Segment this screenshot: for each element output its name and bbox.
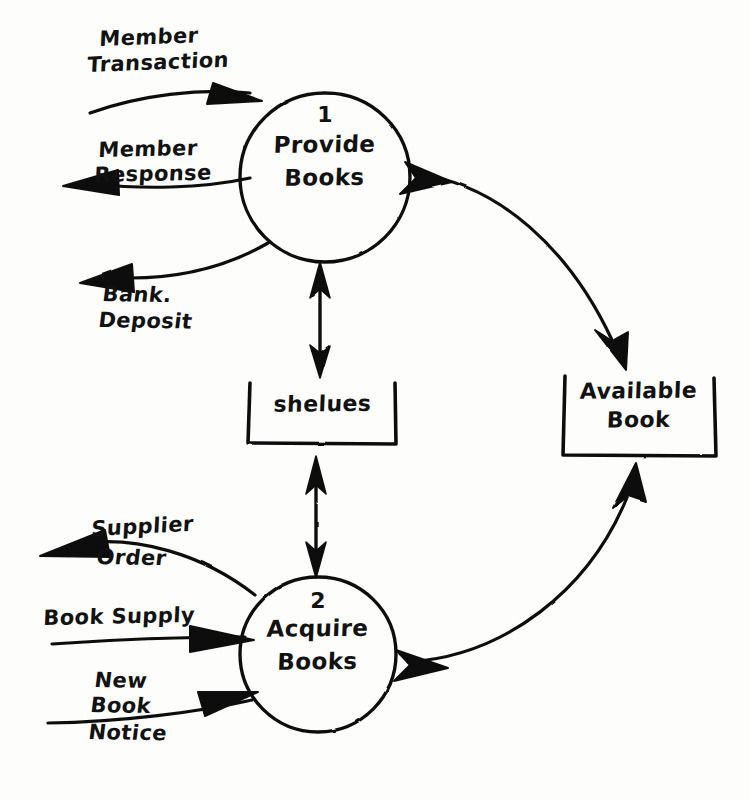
flow-new-book-notice-arrow[interactable]	[48, 692, 258, 723]
flow-process2-available-book-arrow[interactable]	[394, 463, 646, 681]
flow-label-book-supply: Book Supply	[43, 604, 196, 630]
flow-label-bank-deposit-line1: Bank.	[101, 283, 173, 307]
flow-label-member-transaction-line1: Member	[99, 24, 199, 51]
flow-book-supply-arrow[interactable]	[52, 626, 254, 652]
process-2-number: 2	[258, 589, 378, 613]
flow-shelves-process2-arrow[interactable]	[306, 456, 326, 578]
process-2-name-line2: Books	[247, 649, 388, 675]
flow-label-new-book-notice-line1: New	[93, 669, 148, 693]
diagram-canvas: Member Transaction Member Response Bank.…	[0, 0, 750, 800]
datastore-shelves-label: shelues	[251, 392, 394, 417]
flow-process1-shelves-arrow[interactable]	[310, 262, 330, 378]
flow-label-bank-deposit-line2: Deposit	[97, 309, 193, 333]
flow-process1-available-book-arrow[interactable]	[400, 162, 628, 370]
process-1-name-line2: Books	[254, 165, 395, 191]
flow-member-transaction-arrow[interactable]	[90, 83, 262, 113]
flow-label-member-response-line1: Member	[98, 137, 198, 162]
flow-label-new-book-notice-line2: Book	[89, 694, 152, 718]
flow-label-member-response-line2: Response	[94, 162, 212, 187]
process-1-number: 1	[265, 103, 385, 127]
datastore-available-book-label-line2: Book	[562, 407, 715, 432]
flow-label-supplier-order-line2: Order	[95, 546, 168, 570]
process-1-name-line1: Provide	[254, 132, 395, 158]
flow-label-new-book-notice-line3: Notice	[87, 721, 168, 745]
process-2-name-line1: Acquire	[247, 616, 388, 642]
datastore-available-book-label-line1: Available	[562, 378, 715, 403]
